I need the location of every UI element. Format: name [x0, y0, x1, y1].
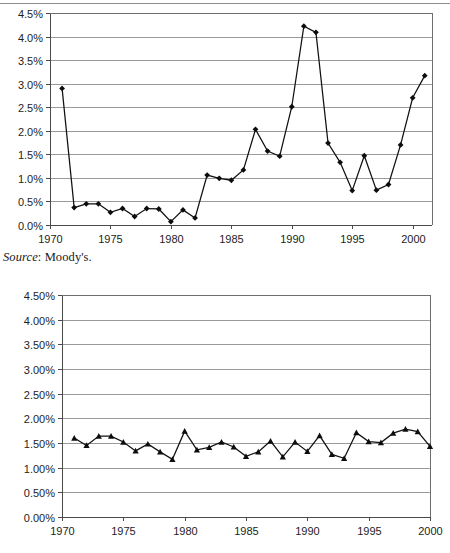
x-tick-label: 1990	[295, 525, 319, 537]
data-point-marker	[317, 433, 323, 439]
y-tick-label: 3.0%	[18, 79, 43, 91]
x-tick-label: 1995	[357, 525, 381, 537]
data-point-marker	[325, 140, 331, 146]
data-point-marker	[182, 428, 188, 434]
y-tick-label: 3.5%	[18, 55, 43, 67]
y-tick-label: 1.5%	[18, 149, 43, 161]
x-tick-label: 2000	[401, 233, 425, 245]
data-point-marker	[71, 435, 77, 441]
data-point-marker	[218, 439, 224, 445]
data-point-marker	[398, 142, 404, 148]
y-tick-label: 4.00%	[24, 315, 55, 327]
y-tick-label: 3.00%	[24, 364, 55, 376]
data-point-marker	[157, 449, 163, 455]
series-line-default-rate	[74, 429, 430, 459]
y-tick-label: 2.00%	[24, 413, 55, 425]
y-tick-label: 2.5%	[18, 102, 43, 114]
y-tick-label: 1.50%	[24, 438, 55, 450]
data-point-marker	[353, 430, 359, 436]
series-line-default-rate	[62, 26, 425, 222]
data-point-marker	[71, 205, 77, 211]
y-tick-label: 0.0%	[18, 220, 43, 232]
y-tick-label: 4.5%	[18, 8, 43, 20]
data-point-marker	[289, 104, 295, 110]
source-note-value: : Moody's.	[38, 250, 92, 264]
y-tick-label: 3.50%	[24, 339, 55, 351]
data-point-marker	[386, 182, 392, 188]
data-point-marker	[337, 159, 343, 165]
y-tick-label: 4.50%	[24, 290, 55, 302]
y-tick-label: 4.0%	[18, 32, 43, 44]
data-point-marker	[313, 29, 319, 35]
y-tick-label: 2.0%	[18, 126, 43, 138]
data-point-marker	[349, 188, 355, 194]
data-point-marker	[204, 172, 210, 178]
data-point-marker	[361, 153, 367, 159]
page-top-rule	[0, 3, 450, 4]
data-point-marker	[301, 23, 307, 29]
data-point-marker	[265, 148, 271, 154]
source-note: Source: Moody's.	[3, 250, 92, 265]
chart-bottom-canvas: 0.00%0.50%1.00%1.50%2.00%2.50%3.00%3.50%…	[0, 285, 450, 550]
x-tick-label: 1970	[50, 525, 74, 537]
data-point-marker	[292, 439, 298, 445]
y-tick-label: 0.50%	[24, 487, 55, 499]
chart-bottom-default-rate: 0.00%0.50%1.00%1.50%2.00%2.50%3.00%3.50%…	[0, 285, 450, 550]
y-tick-label: 1.00%	[24, 463, 55, 475]
x-tick-label: 1975	[111, 525, 135, 537]
x-tick-label: 2000	[418, 525, 442, 537]
data-point-marker	[206, 444, 212, 450]
data-point-marker	[410, 95, 416, 101]
y-tick-label: 0.5%	[18, 196, 43, 208]
source-note-label: Source	[3, 250, 38, 264]
x-tick-label: 1980	[159, 233, 183, 245]
x-tick-label: 1985	[219, 233, 243, 245]
y-tick-label: 1.0%	[18, 173, 43, 185]
data-point-marker	[402, 426, 408, 432]
x-tick-label: 1970	[38, 233, 62, 245]
y-tick-label: 0.00%	[24, 512, 55, 524]
x-tick-label: 1995	[340, 233, 364, 245]
x-tick-label: 1980	[173, 525, 197, 537]
chart-top-canvas: 0.0%0.5%1.0%1.5%2.0%2.5%3.0%3.5%4.0%4.5%…	[0, 8, 450, 248]
x-tick-label: 1990	[280, 233, 304, 245]
y-tick-label: 2.50%	[24, 389, 55, 401]
data-point-marker	[216, 175, 222, 181]
chart-top-default-rate: 0.0%0.5%1.0%1.5%2.0%2.5%3.0%3.5%4.0%4.5%…	[0, 8, 450, 248]
x-tick-label: 1985	[234, 525, 258, 537]
data-point-marker	[267, 438, 273, 444]
data-point-marker	[373, 187, 379, 193]
x-tick-label: 1975	[98, 233, 122, 245]
data-point-marker	[120, 439, 126, 445]
data-point-marker	[169, 456, 175, 462]
data-point-marker	[59, 85, 65, 91]
data-point-marker	[422, 73, 428, 79]
